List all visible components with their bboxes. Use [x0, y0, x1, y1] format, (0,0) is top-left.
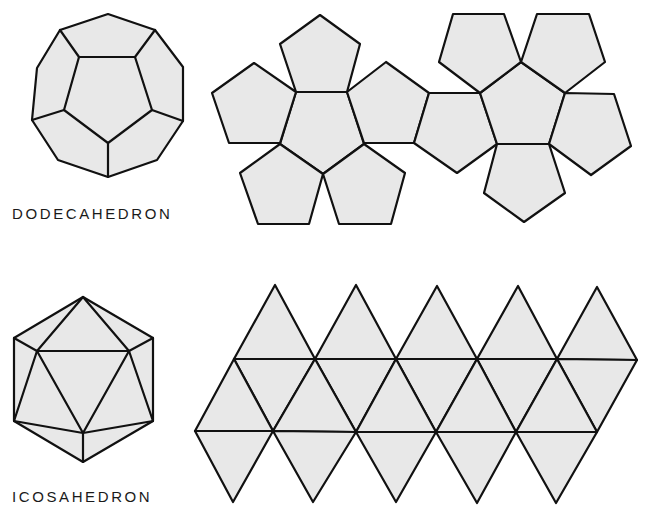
icosahedron-net-face [273, 431, 356, 502]
icosahedron-net [195, 285, 637, 503]
dodecahedron-net [212, 14, 631, 224]
icosahedron-solid [14, 297, 153, 462]
icosahedron-net-face [557, 287, 637, 360]
dodecahedron-net-face [484, 144, 565, 222]
dodecahedron-net-face [280, 15, 360, 92]
polyhedra-diagram [0, 0, 649, 526]
icosahedron-net-face [436, 432, 516, 503]
dodecahedron-net-face [212, 63, 296, 143]
icosahedron-net-face [396, 286, 477, 359]
icosahedron-net-face [356, 432, 436, 502]
icosahedron-label: ICOSAHEDRON [12, 489, 152, 504]
dodecahedron-net-face [549, 93, 631, 175]
icosahedron-net-face [234, 285, 315, 359]
icosahedron-net-face [315, 285, 396, 359]
dodecahedron-solid [32, 14, 183, 177]
icosahedron-net-face [195, 431, 273, 502]
icosahedron-net-face [516, 432, 597, 503]
dodecahedron-label: DODECAHEDRON [12, 206, 172, 221]
icosahedron-net-face [477, 286, 557, 359]
